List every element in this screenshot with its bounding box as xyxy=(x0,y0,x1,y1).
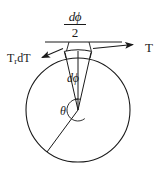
tension-left-tail: dT xyxy=(17,51,30,65)
half-angle-denominator: 2 xyxy=(58,25,92,39)
belt-friction-figure: dϕ 2 T TrdT dϕ θ xyxy=(0,0,157,174)
half-angle-label: dϕ 2 xyxy=(58,10,92,39)
half-angle-numerator: dϕ xyxy=(58,10,92,24)
tension-right-label: T xyxy=(145,41,153,54)
tension-arrow-left xyxy=(42,49,63,58)
wrap-angle-label: θ xyxy=(60,105,66,117)
half-angle-tick-right xyxy=(89,42,91,51)
radius-right-element xyxy=(78,53,91,111)
tension-left-label: TrdT xyxy=(7,52,31,66)
element-angle-label: dϕ xyxy=(67,72,79,84)
tension-arrow-right xyxy=(93,45,133,49)
half-angle-tick-left xyxy=(67,42,70,51)
